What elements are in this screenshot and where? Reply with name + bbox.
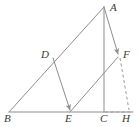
vertex-label-F: F xyxy=(123,49,130,60)
segment-hypotenuse-BA xyxy=(9,7,104,112)
geometry-canvas xyxy=(0,0,139,127)
segment-EF xyxy=(70,57,118,112)
vertex-label-D: D xyxy=(41,49,49,60)
vertex-label-C: C xyxy=(100,113,107,124)
vector-AF xyxy=(104,7,118,54)
geometry-diagram: A B C D E F H xyxy=(0,0,139,127)
dashed-segment-group xyxy=(105,58,132,112)
vector-DE xyxy=(53,58,70,110)
vertex-label-E: E xyxy=(65,113,72,124)
segment-dashed-FH xyxy=(120,58,129,110)
vertex-label-A: A xyxy=(110,2,117,13)
vertex-label-B: B xyxy=(4,113,11,124)
vertex-label-H: H xyxy=(122,113,130,124)
segment-group xyxy=(9,7,133,112)
